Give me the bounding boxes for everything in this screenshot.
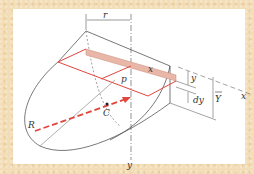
differential-strip [86,49,176,81]
dy-label: dy [193,95,205,105]
y-dimension-label: y [190,73,197,83]
r-dimension [86,14,130,30]
depth-dimensions [170,67,250,120]
p-label: p [121,74,127,84]
y-axis-label: y [126,160,133,170]
R-label: R [27,120,35,130]
centroid-point [106,103,109,106]
hydrostatic-surface-diagram: y r x p R C y dy Y x [0,0,254,174]
C-label: C [103,108,110,118]
resultant-force-arrow [35,99,126,131]
Y-bar-label: Y [215,94,222,104]
x-axis-label: x [241,91,246,101]
body-outline [25,31,170,150]
x-top-label: x [148,64,153,74]
r-label: r [103,10,108,20]
